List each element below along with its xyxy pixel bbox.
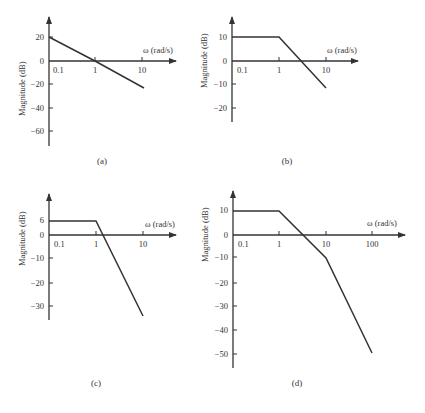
y-tick-label: −30 — [31, 301, 44, 311]
y-axis-label: Magnitude (dB) — [200, 207, 210, 262]
x-axis-label: ω (rad/s) — [327, 45, 357, 55]
y-tick-label: −10 — [214, 79, 227, 89]
y-tick-label: −10 — [31, 253, 44, 263]
x-tick-label: 10 — [322, 239, 331, 249]
x-tick-label: 0.1 — [54, 239, 65, 249]
x-axis-label: ω (rad/s) — [367, 218, 397, 228]
panel-caption: (a) — [97, 156, 107, 166]
magnitude-curve — [232, 37, 326, 88]
x-axis-label: ω (rad/s) — [143, 45, 173, 55]
panel-b: 10 0 −10 −20 0.1 1 10 ω (rad/s) Magnitud… — [199, 17, 358, 166]
x-tick-label: 10 — [139, 239, 148, 249]
y-tick-label: 0 — [40, 230, 44, 240]
panel-caption: (c) — [91, 378, 101, 388]
bode-magnitude-figure: 20 0 −20 −40 −60 0.1 1 10 ω (rad/s) Magn… — [0, 0, 425, 413]
x-tick-label: 0.1 — [53, 65, 64, 75]
panel-caption: (d) — [292, 378, 303, 388]
y-tick-label: −60 — [31, 126, 44, 136]
x-tick-label: 0.1 — [237, 65, 248, 75]
y-axis-label: Magnitude (dB) — [17, 211, 27, 266]
x-tick-label: 1 — [93, 65, 97, 75]
y-tick-label: 0 — [223, 56, 227, 66]
panel-caption: (b) — [282, 156, 293, 166]
y-tick-label: −20 — [31, 79, 44, 89]
y-axis-label: Magnitude (dB) — [17, 61, 27, 116]
panel-a: 20 0 −20 −40 −60 0.1 1 10 ω (rad/s) Magn… — [17, 17, 176, 166]
y-tick-label: −20 — [215, 278, 228, 288]
x-axis-label: ω (rad/s) — [145, 219, 175, 229]
x-tick-label: 1 — [94, 239, 98, 249]
panel-c: 6 0 −10 −20 −30 0.1 1 10 ω (rad/s) Magni… — [17, 194, 176, 388]
y-tick-label: 6 — [40, 215, 44, 225]
x-tick-label: 10 — [322, 65, 331, 75]
y-tick-label: 20 — [36, 32, 45, 42]
x-tick-label: 0.1 — [238, 239, 249, 249]
magnitude-curve — [49, 37, 144, 88]
y-tick-label: −50 — [215, 349, 228, 359]
x-tick-label: 1 — [277, 239, 281, 249]
y-tick-label: −40 — [31, 103, 44, 113]
y-tick-label: −30 — [215, 301, 228, 311]
y-tick-label: 10 — [219, 32, 228, 42]
y-tick-label: −20 — [31, 278, 44, 288]
y-axis-label: Magnitude (dB) — [199, 33, 209, 88]
x-tick-label: 1 — [277, 65, 281, 75]
panel-d: 10 0 −10 −20 −30 −40 −50 0.1 1 10 100 ω … — [200, 191, 405, 388]
y-tick-label: 10 — [220, 205, 229, 215]
y-tick-label: 0 — [40, 56, 44, 66]
x-tick-label: 100 — [366, 239, 379, 249]
y-tick-label: −20 — [214, 103, 227, 113]
magnitude-curve — [233, 211, 372, 353]
x-tick-label: 10 — [138, 65, 147, 75]
y-tick-label: 0 — [224, 230, 228, 240]
y-tick-label: −10 — [215, 252, 228, 262]
y-tick-label: −40 — [215, 325, 228, 335]
